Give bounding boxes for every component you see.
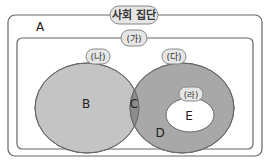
inner-small-label: (라): [184, 90, 199, 100]
inner-label: (가): [126, 34, 141, 44]
region-b-label: B: [82, 97, 90, 111]
right-circle-label: (다): [166, 52, 181, 62]
left-circle-label: (나): [90, 52, 105, 62]
outer-label: 사회 집단: [112, 8, 156, 22]
region-a-label: A: [36, 20, 45, 34]
region-d-label: D: [155, 126, 164, 140]
venn-diagram: 사회 집단 (가) (나) (다) (라) A B C D E: [0, 0, 269, 162]
region-c-label: C: [130, 97, 138, 111]
region-e-label: E: [185, 109, 193, 123]
